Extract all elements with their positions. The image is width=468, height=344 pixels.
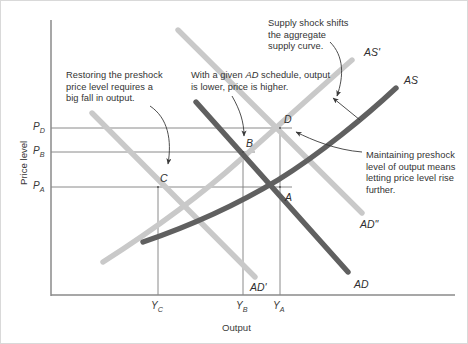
curve-label-as: AS	[404, 74, 418, 86]
y-axis-title: Price level	[18, 141, 29, 185]
annotation-given-ad-symbol: AD	[245, 70, 258, 80]
curve-label-ad: AD	[354, 278, 369, 290]
annotation-given-ad-part1: With a given	[191, 70, 245, 80]
y-tick-pd: PD	[33, 121, 45, 135]
x-tick-yc-sub: C	[158, 305, 163, 314]
y-tick-pb: PB	[33, 145, 44, 159]
y-tick-pa: PA	[33, 180, 44, 194]
x-tick-ya: YA	[273, 300, 284, 314]
curve-label-ad-double-prime: AD"	[360, 218, 378, 230]
y-tick-pa-sub: A	[40, 185, 45, 194]
y-tick-pd-sub: D	[40, 126, 45, 135]
point-label-a: A	[285, 191, 292, 203]
point-b-dot	[242, 151, 244, 153]
point-a-dot	[279, 186, 281, 188]
x-tick-yb: YB	[236, 300, 247, 314]
point-label-b: B	[246, 137, 253, 149]
x-tick-ya-base: Y	[273, 300, 280, 311]
x-tick-yc: YC	[151, 300, 163, 314]
y-tick-pb-sub: B	[40, 150, 45, 159]
x-tick-yb-sub: B	[243, 305, 248, 314]
y-tick-pb-base: P	[33, 145, 40, 156]
point-label-d: D	[284, 113, 292, 125]
x-tick-ya-sub: A	[280, 305, 285, 314]
point-d-dot	[279, 127, 281, 129]
x-axis-title: Output	[222, 322, 251, 333]
point-label-c: C	[160, 172, 168, 184]
y-tick-pa-base: P	[33, 180, 40, 191]
curve-label-ad-prime: AD'	[250, 281, 267, 293]
annotation-given-ad-schedule: With a given AD schedule, output is lowe…	[191, 70, 331, 93]
point-c-dot	[157, 186, 159, 188]
x-tick-yc-base: Y	[151, 300, 158, 311]
x-tick-yb-base: Y	[236, 300, 243, 311]
annotation-maintaining-preshock: Maintaining preshock level of output mea…	[366, 150, 468, 196]
y-tick-pd-base: P	[33, 121, 40, 132]
annotation-restoring-preshock: Restoring the preshock price level requi…	[66, 70, 191, 105]
figure-canvas: Restoring the preshock price level requi…	[0, 0, 468, 344]
curve-label-as-prime: AS'	[364, 46, 380, 58]
